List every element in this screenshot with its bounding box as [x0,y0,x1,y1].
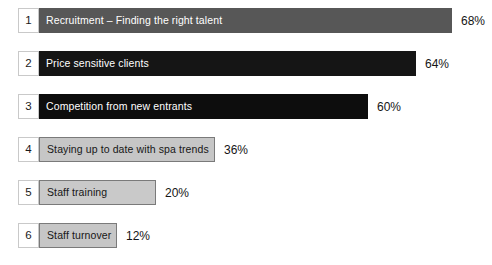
chart-row: 3 Competition from new entrants 60% [18,94,401,119]
ranked-bar-chart: 1 Recruitment – Finding the right talent… [0,0,492,265]
bar-label: Staff turnover [47,230,111,241]
chart-row: 4 Staying up to date with spa trends 36% [18,137,248,162]
rank-badge: 1 [18,8,39,33]
bar-label: Staying up to date with spa trends [47,144,209,155]
bar-value: 64% [416,51,449,76]
bar-competition-new-entrants[interactable]: Competition from new entrants [39,94,368,119]
bar-label: Staff training [47,187,107,198]
bar-value: 60% [368,94,401,119]
bar-price-sensitive-clients[interactable]: Price sensitive clients [39,51,416,76]
rank-badge: 4 [18,137,39,162]
bar-label: Price sensitive clients [46,58,149,69]
chart-row: 2 Price sensitive clients 64% [18,51,449,76]
bar-label: Recruitment – Finding the right talent [46,15,222,26]
rank-badge: 3 [18,94,39,119]
bar-value: 36% [215,137,248,162]
bar-spa-trends[interactable]: Staying up to date with spa trends [39,137,215,162]
chart-row: 5 Staff training 20% [18,180,189,205]
bar-staff-training[interactable]: Staff training [39,180,156,205]
bar-staff-turnover[interactable]: Staff turnover [39,223,117,248]
rank-badge: 6 [18,223,39,248]
chart-row: 6 Staff turnover 12% [18,223,150,248]
rank-badge: 2 [18,51,39,76]
rank-badge: 5 [18,180,39,205]
bar-value: 12% [117,223,150,248]
bar-value: 20% [156,180,189,205]
chart-row: 1 Recruitment – Finding the right talent… [18,8,485,33]
bar-label: Competition from new entrants [46,101,192,112]
bar-value: 68% [452,8,485,33]
bar-recruitment[interactable]: Recruitment – Finding the right talent [39,8,452,33]
